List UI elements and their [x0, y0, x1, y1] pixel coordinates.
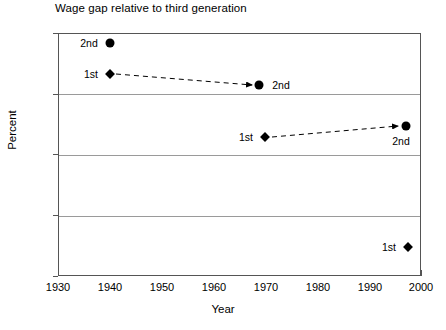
x-tick-label-1950: 1950 — [150, 281, 174, 293]
x-tick-label-1990: 1990 — [358, 281, 382, 293]
chart-title: Wage gap relative to third generation — [55, 2, 247, 14]
x-tick-label-1960: 1960 — [202, 281, 226, 293]
gridline-neg15 — [59, 216, 420, 217]
x-tick-label-2000: 2000 — [409, 281, 433, 293]
data-point-label-2nd-1940: 2nd — [80, 37, 98, 49]
data-point-2nd-1970[interactable] — [255, 81, 264, 90]
x-tick-mark-2000 — [421, 270, 422, 276]
chart-figure: Wage gap relative to third generation Pe… — [0, 0, 446, 330]
gridline-15 — [59, 94, 420, 95]
data-point-label-2nd-1998: 2nd — [392, 135, 410, 147]
x-tick-label-1970: 1970 — [254, 281, 278, 293]
x-tick-label-1980: 1980 — [306, 281, 330, 293]
plot-area — [58, 33, 421, 276]
data-point-label-2nd-1970: 2nd — [272, 79, 290, 91]
x-tick-label-1940: 1940 — [98, 281, 122, 293]
y-tick-mark-neg30 — [53, 276, 58, 277]
x-axis-label: Year — [0, 303, 446, 315]
data-point-label-1st-1970: 1st — [239, 131, 253, 143]
gridline-0 — [59, 155, 420, 156]
x-tick-label-1930: 1930 — [46, 281, 70, 293]
y-axis-label: Percent — [6, 110, 18, 150]
data-point-2nd-1940[interactable] — [106, 39, 115, 48]
data-point-label-1st-1998: 1st — [382, 241, 396, 253]
data-point-2nd-1998[interactable] — [402, 122, 411, 131]
data-point-label-1st-1940: 1st — [84, 68, 98, 80]
